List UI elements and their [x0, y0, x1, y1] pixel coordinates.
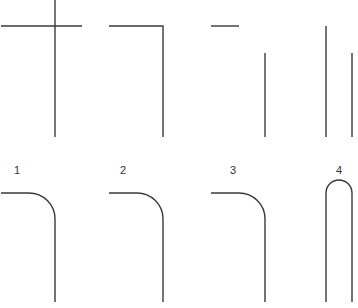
label-2: 2 [120, 164, 126, 176]
join-styles-diagram: 1 2 3 4 [0, 0, 358, 308]
bottom-shape-3 [211, 193, 265, 302]
bottom-shape-2 [109, 193, 163, 302]
top-shape-corner [109, 26, 163, 137]
label-1: 1 [14, 164, 20, 176]
label-4: 4 [336, 164, 342, 176]
bottom-shape-1 [1, 193, 55, 302]
top-shape-parallel [326, 26, 352, 137]
bottom-shape-4 [326, 180, 352, 302]
top-shape-cross [1, 0, 82, 137]
top-shape-offset [211, 26, 265, 137]
label-3: 3 [230, 164, 236, 176]
